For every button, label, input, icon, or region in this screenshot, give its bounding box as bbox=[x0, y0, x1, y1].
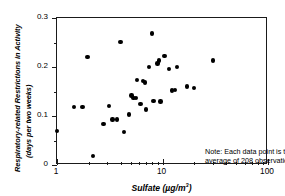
x-tick-minor bbox=[158, 162, 159, 165]
data-point bbox=[173, 88, 177, 92]
sample-size-note: Note: Each data point is the average of … bbox=[205, 147, 285, 165]
data-point bbox=[175, 65, 179, 69]
data-point bbox=[147, 65, 151, 69]
y-tick-label: 0.3 bbox=[26, 13, 48, 21]
x-tick-minor bbox=[139, 162, 140, 165]
data-point bbox=[85, 55, 89, 59]
y-tick-label: 0.1 bbox=[26, 111, 48, 119]
data-point bbox=[101, 122, 105, 126]
data-point bbox=[143, 80, 147, 84]
data-point bbox=[107, 104, 111, 108]
data-point bbox=[167, 67, 171, 71]
y-tick-major bbox=[52, 18, 57, 19]
x-axis-title-exponent: 3 bbox=[186, 182, 189, 188]
data-point bbox=[138, 102, 142, 106]
data-point bbox=[185, 84, 189, 88]
y-tick-minor bbox=[54, 92, 57, 93]
note-line-2: average of 208 observations. bbox=[205, 156, 285, 165]
data-point bbox=[144, 107, 148, 111]
plot-area: Note: Each data point is the average of … bbox=[56, 17, 267, 164]
x-tick-label: 100 bbox=[254, 167, 280, 176]
data-point bbox=[80, 105, 84, 109]
y-axis-title: Respiratory-related Restrictions in Acti… bbox=[0, 0, 34, 180]
data-point bbox=[135, 78, 139, 82]
data-point bbox=[134, 96, 138, 100]
y-axis-title-line2: (days per two weeks) bbox=[24, 85, 33, 158]
data-point bbox=[150, 31, 154, 35]
data-point bbox=[55, 129, 59, 133]
data-point bbox=[157, 58, 161, 62]
x-tick-minor bbox=[152, 162, 153, 165]
data-point bbox=[162, 54, 166, 58]
x-tick-label: 1 bbox=[43, 167, 69, 176]
data-point bbox=[118, 40, 122, 44]
x-tick-minor bbox=[146, 162, 147, 165]
x-tick-minor bbox=[194, 162, 195, 165]
x-tick-label: 10 bbox=[149, 167, 175, 176]
x-tick-minor bbox=[121, 162, 122, 165]
data-point bbox=[158, 99, 162, 103]
data-point bbox=[115, 117, 119, 121]
y-tick-minor bbox=[54, 141, 57, 142]
y-tick-major bbox=[52, 116, 57, 117]
y-tick-label: 0.2 bbox=[26, 62, 48, 70]
data-point bbox=[192, 86, 196, 90]
data-point bbox=[91, 154, 95, 158]
x-tick-major bbox=[57, 159, 58, 165]
x-axis-title: Sulfate (µg/m3) bbox=[56, 182, 267, 193]
x-tick-minor bbox=[107, 162, 108, 165]
data-point bbox=[151, 99, 155, 103]
x-tick-minor bbox=[131, 162, 132, 165]
data-point bbox=[110, 117, 114, 121]
y-tick-major bbox=[52, 67, 57, 68]
data-point bbox=[127, 112, 131, 116]
x-tick-minor bbox=[89, 162, 90, 165]
data-point bbox=[211, 58, 215, 62]
x-tick-major bbox=[163, 159, 164, 165]
data-point bbox=[72, 105, 76, 109]
y-tick-minor bbox=[54, 43, 57, 44]
data-point bbox=[122, 130, 126, 134]
scatter-chart-figure: Respiratory-related Restrictions in Acti… bbox=[0, 0, 285, 196]
note-line-1: Note: Each data point is the bbox=[205, 147, 285, 156]
y-axis-title-line1: Respiratory-related Restrictions in Acti… bbox=[13, 25, 22, 172]
